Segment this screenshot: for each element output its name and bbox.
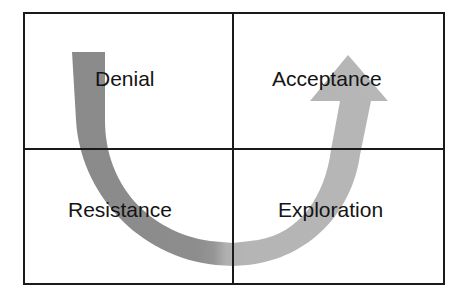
quadrant-label-exploration: Exploration xyxy=(278,199,383,220)
quadrant-label-acceptance: Acceptance xyxy=(272,68,382,89)
diagram-canvas: Denial Acceptance Resistance Exploration xyxy=(0,0,464,297)
quadrant-diagram-svg xyxy=(0,0,464,297)
quadrant-label-denial: Denial xyxy=(95,68,155,89)
quadrant-label-resistance: Resistance xyxy=(68,199,172,220)
